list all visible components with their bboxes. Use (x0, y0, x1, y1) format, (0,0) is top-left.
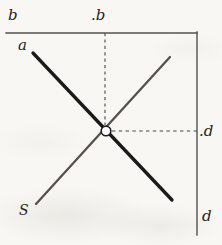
label-right-middle-d: .d (199, 124, 213, 139)
label-top-left-b: b (8, 8, 18, 23)
intersection-point-marker (101, 126, 111, 136)
label-top-middle-b: .b (91, 8, 105, 23)
diagonal-line-a (33, 53, 172, 200)
diagram-canvas (0, 0, 222, 245)
label-ray-s: S (19, 203, 29, 217)
label-bottom-right-d: d (202, 209, 212, 224)
geometry-figure: b .b a S .d d (0, 0, 222, 245)
label-ray-a: a (18, 38, 27, 53)
